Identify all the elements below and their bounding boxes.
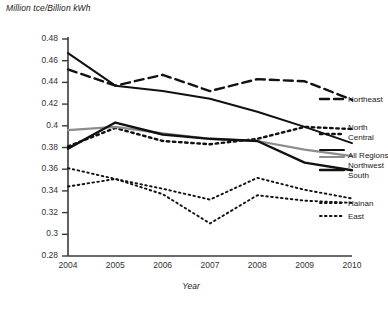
x-tick-label: 2006 [141, 260, 185, 270]
x-tick-label: 2005 [93, 260, 137, 270]
series-line-hainan [68, 168, 352, 199]
y-tick-label: 0.28 [18, 250, 58, 260]
series-line-east [68, 179, 352, 223]
y-tick-label: 0.38 [18, 142, 58, 152]
legend-label-all-regions: All Regions [348, 151, 388, 161]
y-tick-label: 0.3 [18, 228, 58, 238]
legend-label-central: Central [348, 133, 374, 143]
x-axis-title: Year [0, 281, 382, 291]
x-tick-label: 2007 [188, 260, 232, 270]
legend-label-south: South [348, 171, 369, 181]
series-layer [68, 53, 352, 223]
series-line-all-regions [68, 127, 352, 156]
y-tick-label: 0.32 [18, 207, 58, 217]
x-tick-label: 2009 [283, 260, 327, 270]
legend-swatches [320, 99, 344, 216]
legend-label-hainan: Hainan [348, 199, 373, 209]
series-line-northeast [68, 69, 352, 99]
y-tick-label: 0.4 [18, 120, 58, 130]
x-tick-label: 2004 [46, 260, 90, 270]
legend-label-northwest: Northwest [348, 161, 384, 171]
y-tick-label: 0.48 [18, 33, 58, 43]
y-tick-label: 0.44 [18, 76, 58, 86]
legend-label-northeast: Northeast [348, 95, 383, 105]
x-tick-label: 2008 [235, 260, 279, 270]
y-tick-label: 0.36 [18, 163, 58, 173]
x-tick-label: 2010 [330, 260, 374, 270]
legend-label-north: North [348, 123, 368, 133]
y-tick-label: 0.46 [18, 55, 58, 65]
y-tick-label: 0.34 [18, 185, 58, 195]
legend-label-east: East [348, 212, 364, 222]
series-line-north-central [68, 127, 352, 147]
y-axis-ticks [62, 39, 68, 256]
y-tick-label: 0.42 [18, 98, 58, 108]
